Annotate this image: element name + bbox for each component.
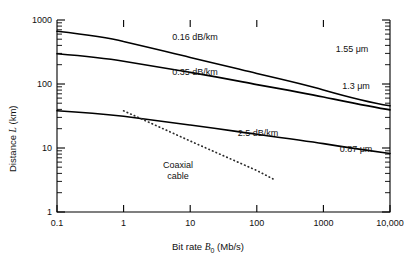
y-axis-title-prefix: Distance bbox=[7, 132, 18, 172]
curve-annotations: 0.16 dB/km 1.55 μm 0.35 dB/km 1.3 μm 2.5… bbox=[163, 32, 372, 181]
annotation-loss-035: 0.35 dB/km bbox=[172, 67, 218, 77]
curve-1300nm bbox=[57, 54, 390, 110]
annotation-loss-25: 2.5 dB/km bbox=[238, 128, 279, 138]
annotation-wavelength-155: 1.55 μm bbox=[336, 44, 369, 54]
annotation-loss-016: 0.16 dB/km bbox=[172, 32, 218, 42]
x-tick-label-1: 1 bbox=[121, 218, 126, 228]
x-tick-labels: 0.1 1 10 100 1000 10,000 bbox=[51, 218, 404, 228]
x-tick-label-1000: 1000 bbox=[313, 218, 333, 228]
svg-text:Bit rate B0 (Mb/s): Bit rate B0 (Mb/s) bbox=[172, 241, 244, 254]
x-tick-label-10: 10 bbox=[185, 218, 195, 228]
x-tick-label-100: 100 bbox=[249, 218, 264, 228]
y-axis-title: Distance L (km) bbox=[7, 105, 18, 172]
annotation-wavelength-087: 0.87 μm bbox=[340, 144, 373, 154]
svg-text:Distance L (km): Distance L (km) bbox=[7, 105, 18, 172]
annotation-coaxial-line1: Coaxial bbox=[163, 160, 193, 170]
x-tick-label-10000: 10,000 bbox=[376, 218, 404, 228]
figure-container: 1 10 100 1000 0.1 1 10 100 1000 10,000 B… bbox=[0, 0, 418, 263]
chart-svg: 1 10 100 1000 0.1 1 10 100 1000 10,000 B… bbox=[0, 0, 418, 263]
curve-1550nm bbox=[57, 31, 390, 106]
x-axis-title-prefix: Bit rate bbox=[172, 241, 205, 252]
y-tick-label-100: 100 bbox=[37, 79, 52, 89]
x-axis-title-units: (Mb/s) bbox=[214, 241, 244, 252]
y-tick-label-10: 10 bbox=[42, 143, 52, 153]
x-tick-label-0p1: 0.1 bbox=[51, 218, 64, 228]
y-tick-label-1: 1 bbox=[47, 207, 52, 217]
x-axis-title: Bit rate B0 (Mb/s) bbox=[172, 241, 244, 254]
curve-coaxial-cable bbox=[124, 111, 276, 181]
y-axis-title-units: (km) bbox=[7, 105, 18, 127]
y-tick-labels: 1 10 100 1000 bbox=[32, 15, 52, 217]
annotation-wavelength-13: 1.3 μm bbox=[342, 81, 370, 91]
y-tick-label-1000: 1000 bbox=[32, 15, 52, 25]
annotation-coaxial-line2: cable bbox=[167, 171, 189, 181]
